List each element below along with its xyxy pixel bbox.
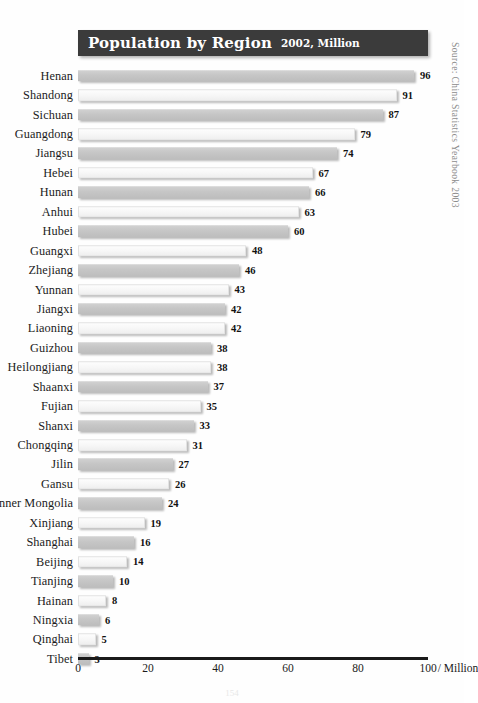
chart-title: Population by Region	[88, 34, 272, 52]
bar-value-label: 33	[194, 420, 211, 431]
bar-row: Jiangxi42	[0, 299, 464, 318]
bar-track: 46	[78, 264, 428, 276]
bar-row: Jiangsu74	[0, 144, 464, 163]
bar-row: Xinjiang19	[0, 513, 464, 532]
bar-value-label: 67	[313, 167, 330, 178]
bar-category-label: Tianjing	[31, 574, 78, 589]
x-axis-tick: 20	[142, 662, 154, 674]
bar-track: 63	[78, 206, 428, 218]
bar-row: Ningxia6	[0, 610, 464, 629]
bar-track: 42	[78, 303, 428, 315]
bar-row: Hubei60	[0, 222, 464, 241]
bar-category-label: Guangxi	[30, 243, 78, 258]
bar	[78, 439, 187, 451]
bar-row: Chongqing31	[0, 435, 464, 454]
bar-row: Sichuan87	[0, 105, 464, 124]
bar-track: 33	[78, 420, 428, 432]
bar-row: Tianjing10	[0, 571, 464, 590]
bar	[78, 381, 208, 393]
bar-category-label: Beijing	[36, 554, 78, 569]
bar-row: Hebei67	[0, 163, 464, 182]
bar	[78, 614, 99, 626]
bar-category-label: Jiangsu	[35, 146, 78, 161]
bar	[78, 245, 246, 257]
chart-title-band: Population by Region 2002, Million	[78, 30, 428, 56]
bar	[78, 303, 225, 315]
bar-track: 14	[78, 556, 428, 568]
bar-track: 38	[78, 362, 428, 374]
bar-category-label: Yunnan	[35, 282, 78, 297]
bar-category-label: Sichuan	[33, 107, 78, 122]
x-axis-tick: 100	[419, 662, 436, 674]
page-number: 154	[0, 688, 464, 698]
bar-track: 16	[78, 536, 428, 548]
bar-value-label: 87	[383, 109, 400, 120]
bar-value-label: 19	[145, 517, 162, 528]
bar-row: Shanghai16	[0, 533, 464, 552]
bar-value-label: 5	[96, 634, 107, 645]
bar-track: 38	[78, 342, 428, 354]
bar-row: Anhui63	[0, 202, 464, 221]
bar-value-label: 48	[246, 245, 263, 256]
bar-value-label: 38	[211, 362, 228, 373]
bar-value-label: 8	[106, 595, 117, 606]
bar-value-label: 43	[229, 284, 246, 295]
bar-category-label: Jilin	[51, 457, 78, 472]
bar-track: 66	[78, 187, 428, 199]
bar-track: 26	[78, 478, 428, 490]
bar-row: Liaoning42	[0, 319, 464, 338]
bar	[78, 595, 106, 607]
bar-value-label: 79	[355, 129, 372, 140]
bar-category-label: Qinghai	[33, 632, 78, 647]
bar-row: Heilongjiang38	[0, 358, 464, 377]
bar-track: 31	[78, 439, 428, 451]
bar-track: 8	[78, 595, 428, 607]
bar	[78, 264, 239, 276]
bar	[78, 225, 288, 237]
bar	[78, 498, 162, 510]
bar-value-label: 38	[211, 342, 228, 353]
bar	[78, 478, 169, 490]
bar	[78, 109, 383, 121]
x-axis-tick: 0	[75, 662, 81, 674]
bar-track: 19	[78, 517, 428, 529]
bar-value-label: 66	[309, 187, 326, 198]
bar-category-label: Hainan	[37, 593, 78, 608]
bar-row: Beijing14	[0, 552, 464, 571]
bar-value-label: 96	[414, 70, 431, 81]
bar-category-label: Hubei	[42, 224, 78, 239]
bar-row: Guangdong79	[0, 124, 464, 143]
bar-row: Zhejiang46	[0, 260, 464, 279]
bar-value-label: 42	[225, 323, 242, 334]
x-axis-line	[78, 657, 428, 660]
bar-category-label: Liaoning	[28, 321, 78, 336]
bar-value-label: 16	[134, 537, 151, 548]
bar-row: Shandong91	[0, 85, 464, 104]
bar-value-label: 14	[127, 556, 144, 567]
bar-track: 43	[78, 284, 428, 296]
bar	[78, 634, 96, 646]
bar-track: 87	[78, 109, 428, 121]
bar-category-label: Hunan	[40, 185, 78, 200]
bar	[78, 206, 299, 218]
bar-category-label: Hebei	[43, 165, 78, 180]
bar	[78, 323, 225, 335]
bar-value-label: 46	[239, 265, 256, 276]
bar-category-label: Jiangxi	[37, 301, 78, 316]
bar-category-label: Henan	[40, 68, 78, 83]
bar-value-label: 10	[113, 576, 130, 587]
bar-row: Gansu26	[0, 474, 464, 493]
bar-row: Inner Mongolia24	[0, 494, 464, 513]
bar	[78, 400, 201, 412]
bar-track: 37	[78, 381, 428, 393]
bar-track: 96	[78, 70, 428, 82]
bar-category-label: Inner Mongolia	[0, 496, 78, 511]
bar	[78, 187, 309, 199]
bar	[78, 420, 194, 432]
bar-value-label: 37	[208, 381, 225, 392]
x-axis-tick: 40	[212, 662, 224, 674]
bar-row: Guizhou38	[0, 338, 464, 357]
bar-value-label: 26	[169, 478, 186, 489]
bar-row: Henan96	[0, 66, 464, 85]
bar	[78, 459, 173, 471]
